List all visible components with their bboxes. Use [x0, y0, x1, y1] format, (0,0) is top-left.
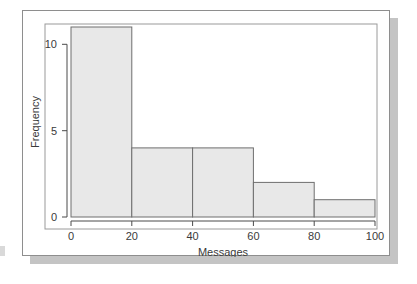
x-tick-label-100: 100 — [366, 230, 384, 242]
bars-group — [71, 27, 375, 217]
x-tick-label-60: 60 — [247, 230, 259, 242]
histogram-chart: 0 5 10 0 20 40 60 80 100 — [23, 11, 391, 257]
bar-bin-40-60 — [193, 148, 254, 217]
y-tick-label-0: 0 — [51, 211, 57, 223]
plot-area: 0 5 10 0 20 40 60 80 100 — [23, 11, 391, 257]
y-axis-title: Frequency — [29, 96, 41, 148]
x-axis-title: Messages — [198, 246, 249, 257]
chart-card: 0 5 10 0 20 40 60 80 100 — [22, 10, 390, 256]
bar-bin-0-20 — [71, 27, 132, 217]
x-tick-label-0: 0 — [68, 230, 74, 242]
bar-bin-20-40 — [132, 148, 193, 217]
y-tick-label-5: 5 — [51, 125, 57, 137]
bar-bin-60-80 — [253, 182, 314, 217]
y-tick-label-10: 10 — [45, 38, 57, 50]
edge-artifact — [0, 246, 5, 256]
x-tick-label-80: 80 — [308, 230, 320, 242]
bar-bin-80-100 — [314, 200, 375, 217]
x-ticks-group — [71, 221, 375, 226]
figure-container: 0 5 10 0 20 40 60 80 100 — [0, 0, 417, 284]
x-tick-label-40: 40 — [186, 230, 198, 242]
x-tick-label-20: 20 — [126, 230, 138, 242]
